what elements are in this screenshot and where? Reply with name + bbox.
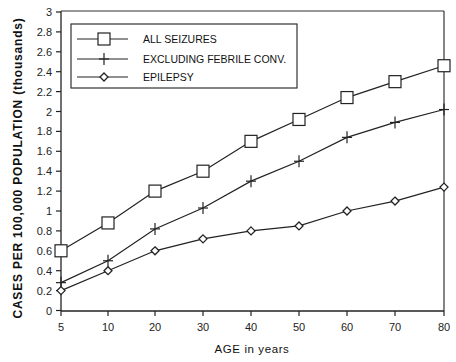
square-marker	[102, 217, 114, 229]
y-tick-label: 1.8	[37, 125, 52, 137]
diamond-marker	[104, 267, 112, 275]
line-chart: 00.20.40.60.811.21.41.61.822.22.42.62.83…	[0, 0, 456, 362]
legend: ALL SEIZURESEXCLUDING FEBRILE CONV.EPILE…	[71, 24, 297, 88]
y-tick-label: 1.2	[37, 185, 52, 197]
diamond-marker	[295, 222, 303, 230]
x-tick-label: 50	[293, 321, 305, 333]
diamond-marker	[391, 197, 399, 205]
y-axis-ticks: 00.20.40.60.811.21.41.61.822.22.42.62.83	[37, 6, 61, 317]
y-axis-title: CASES PER 100,000 POPULATION (thousands)	[11, 17, 25, 318]
x-tick-label: 60	[341, 321, 353, 333]
x-tick-label: 20	[149, 321, 161, 333]
diamond-marker	[440, 183, 448, 191]
x-tick-label: 5	[58, 321, 64, 333]
legend-label: EXCLUDING FEBRILE CONV.	[143, 53, 286, 65]
y-tick-label: 1.6	[37, 145, 52, 157]
series-plus	[56, 104, 449, 289]
legend-label: ALL SEIZURES	[143, 33, 217, 45]
y-tick-label: 0.4	[37, 265, 52, 277]
y-tick-label: 2.4	[37, 66, 52, 78]
x-tick-label: 40	[245, 321, 257, 333]
plus-marker	[390, 116, 400, 128]
y-tick-label: 0.8	[37, 225, 52, 237]
plus-marker	[342, 131, 352, 143]
y-tick-label: 2.2	[37, 86, 52, 98]
square-marker	[197, 165, 209, 177]
legend-label: EPILEPSY	[143, 71, 194, 83]
y-tick-label: 2	[46, 106, 52, 118]
diamond-marker	[247, 227, 255, 235]
square-marker	[245, 135, 257, 147]
diamond-marker	[151, 247, 159, 255]
square-marker	[149, 185, 161, 197]
square-marker	[438, 60, 450, 72]
plus-marker	[439, 104, 449, 116]
y-tick-label: 0	[46, 305, 52, 317]
series-square	[55, 60, 450, 257]
y-tick-label: 2.6	[37, 46, 52, 58]
x-axis-title: AGE in years	[215, 343, 290, 355]
data-series	[55, 60, 450, 295]
plus-marker	[198, 202, 208, 214]
y-tick-label: 1.4	[37, 165, 52, 177]
y-tick-label: 3	[46, 6, 52, 18]
y-tick-label: 0.2	[37, 285, 52, 297]
y-tick-label: 2.8	[37, 26, 52, 38]
x-tick-label: 80	[438, 321, 450, 333]
diamond-marker	[199, 235, 207, 243]
plus-marker	[246, 175, 256, 187]
y-tick-label: 0.6	[37, 245, 52, 257]
plus-marker	[150, 223, 160, 235]
x-axis-ticks: 51020304050607080	[58, 311, 450, 333]
legend-item: ALL SEIZURES	[77, 33, 217, 45]
plus-marker	[103, 255, 113, 267]
square-marker	[55, 245, 67, 257]
diamond-marker	[57, 287, 65, 295]
x-tick-label: 10	[102, 321, 114, 333]
diamond-marker	[343, 207, 351, 215]
square-marker	[293, 113, 305, 125]
square-marker	[389, 76, 401, 88]
plus-marker	[294, 155, 304, 167]
y-tick-label: 1	[46, 205, 52, 217]
square-marker	[341, 92, 353, 104]
series-diamond	[57, 183, 448, 294]
square-marker	[98, 33, 110, 45]
x-tick-label: 70	[389, 321, 401, 333]
x-tick-label: 30	[197, 321, 209, 333]
